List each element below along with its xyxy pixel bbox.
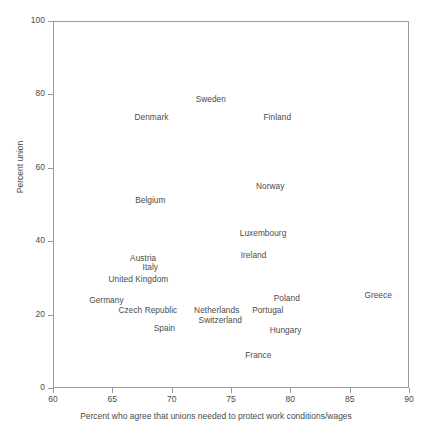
x-tick-label-wrap: 65 [92,394,132,406]
data-point-label: Italy [143,262,158,271]
y-tick-mark [48,94,53,95]
data-point-label: Finland [263,113,291,122]
x-tick-mark [350,388,351,393]
y-tick-label-wrap: 0 [0,383,45,393]
y-tick-label: 40 [5,236,45,245]
scatter-plot-figure: 100806040200 60657075808590 SwedenDenmar… [0,0,432,438]
data-point-label: Portugal [252,305,283,314]
x-tick-mark [112,388,113,393]
x-tick-label-wrap: 70 [152,394,192,406]
data-point-label: Netherlands [194,305,239,314]
data-point-label: Sweden [196,94,226,103]
data-point-label: Spain [154,323,175,332]
y-tick-mark [48,241,53,242]
y-tick-mark [48,315,53,316]
x-axis-title: Percent who agree that unions needed to … [0,411,432,422]
data-point-label: Denmark [134,113,168,122]
x-tick-label: 85 [330,394,370,404]
y-tick-label-wrap: 80 [0,89,45,99]
data-point-label: France [245,350,271,359]
y-tick-label-wrap: 20 [0,310,45,320]
data-point-label: Czech Republic [119,305,178,314]
y-tick-label-wrap: 100 [0,16,45,26]
y-tick-label: 100 [5,16,45,25]
x-tick-label-wrap: 80 [270,394,310,406]
x-tick-label-wrap: 60 [33,394,73,406]
data-point-label: Hungary [270,326,302,335]
data-point-label: United Kingdom [109,275,169,284]
data-point-label: Luxembourg [240,229,287,238]
x-tick-label: 90 [389,394,429,404]
y-tick-mark [48,168,53,169]
x-tick-mark [231,388,232,393]
data-point-label: Greece [364,291,392,300]
y-axis-title: Percent union [13,107,27,227]
data-point-label: Belgium [135,196,165,205]
x-tick-mark [53,388,54,393]
data-point-label: Switzerland [199,316,242,325]
x-tick-label-wrap: 85 [330,394,370,406]
x-tick-label: 70 [152,394,192,404]
x-tick-mark [172,388,173,393]
x-tick-label: 65 [92,394,132,404]
data-point-label: Germany [89,295,123,304]
y-tick-label: 20 [5,310,45,319]
y-tick-label: 80 [5,89,45,98]
x-tick-label: 75 [211,394,251,404]
x-tick-label-wrap: 90 [389,394,429,406]
y-tick-label-wrap: 40 [0,236,45,246]
x-tick-label: 80 [270,394,310,404]
x-tick-mark [290,388,291,393]
y-tick-mark [48,21,53,22]
data-point-label: Ireland [241,251,267,260]
y-axis-title-wrap: Percent union [13,107,27,227]
x-tick-label: 60 [33,394,73,404]
y-tick-label: 0 [5,383,45,392]
data-point-label: Norway [256,182,284,191]
x-tick-label-wrap: 75 [211,394,251,406]
x-tick-mark [409,388,410,393]
data-point-label: Poland [274,294,300,303]
plot-area [53,21,409,388]
